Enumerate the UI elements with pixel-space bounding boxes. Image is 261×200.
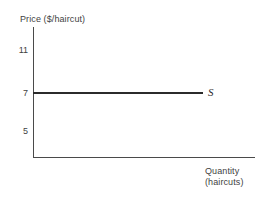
y-tick-label-5: 5	[8, 126, 28, 136]
x-axis-line	[33, 157, 255, 158]
x-axis-title-line-2: (haircuts)	[205, 177, 244, 188]
x-axis-title: Quantity (haircuts)	[205, 166, 244, 188]
supply-curve-line	[33, 92, 203, 94]
x-axis-title-line-1: Quantity	[205, 166, 244, 177]
y-tick-label-7: 7	[8, 88, 28, 98]
y-axis-title: Price ($/haircut)	[20, 14, 85, 25]
supply-curve-label: S	[208, 86, 214, 98]
y-tick-label-11: 11	[8, 45, 28, 55]
supply-curve-chart: Price ($/haircut) 11 7 5 S Quantity (hai…	[0, 0, 261, 200]
